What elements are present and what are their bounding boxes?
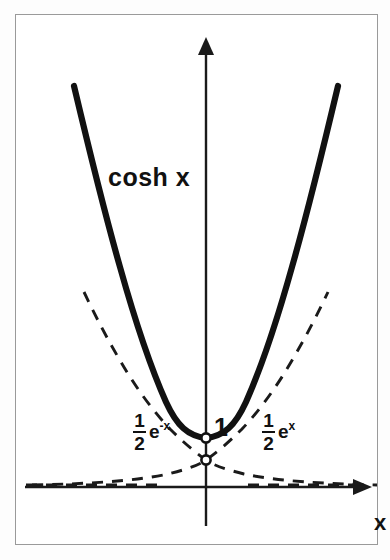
plot-canvas: [16, 15, 377, 544]
curve-label-cosh: cosh x: [108, 165, 190, 190]
fraction-one-half-right: 1 2: [262, 411, 275, 453]
y-axis-arrowhead: [198, 37, 214, 55]
x-axis-arrowhead: [353, 479, 372, 495]
x-axis-label: x: [374, 512, 386, 534]
marker-cosh-minimum: [201, 433, 210, 442]
axis-value-label-one: 1: [214, 415, 228, 440]
exponential-base: e: [278, 421, 289, 443]
fraction-denominator: 2: [262, 433, 275, 453]
figure-root: cosh x 1 x 1 2 e -x 1 2 e x: [0, 0, 390, 560]
exponential-exponent: -x: [160, 419, 171, 433]
plot-frame-border: cosh x 1 x 1 2 e -x 1 2 e x: [15, 14, 378, 545]
fraction-numerator: 1: [133, 411, 146, 431]
curve-half-exp-positive: [32, 292, 328, 485]
fraction-one-half-left: 1 2: [133, 411, 146, 453]
exponential-base: e: [149, 421, 160, 443]
curve-label-half-exp-positive: 1 2 e x: [262, 411, 295, 453]
exponential-exponent: x: [289, 419, 296, 433]
curve-label-half-exp-negative: 1 2 e -x: [133, 411, 170, 453]
marker-exponential-crossing: [201, 455, 210, 464]
curve-half-exp-negative: [84, 292, 377, 485]
fraction-denominator: 2: [133, 433, 146, 453]
fraction-numerator: 1: [262, 411, 275, 431]
